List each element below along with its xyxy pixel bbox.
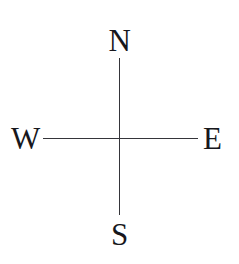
direction-label-south: S [0,219,239,250]
compass-directions-diagram: N S W E [0,0,239,264]
north-south-axis-line [119,58,120,215]
direction-label-north: N [0,25,239,56]
direction-label-west: W [11,123,40,154]
direction-label-east: E [203,123,222,154]
west-east-axis-line [43,138,198,139]
